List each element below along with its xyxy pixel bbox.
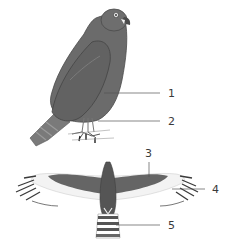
callout-label-4: 4 <box>212 184 219 195</box>
perched-hawk <box>30 9 130 146</box>
banded-tail <box>96 214 120 238</box>
hawk-diagram: 1 2 3 4 5 <box>0 0 229 249</box>
callout-label-1: 1 <box>168 88 175 99</box>
callout-label-5: 5 <box>168 220 175 231</box>
callout-label-2: 2 <box>168 116 175 127</box>
callout-label-3: 3 <box>145 148 152 159</box>
hawk-illustration <box>0 0 229 249</box>
